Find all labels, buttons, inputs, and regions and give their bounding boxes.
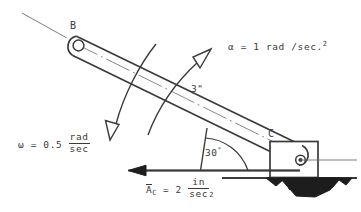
slider-block bbox=[270, 142, 318, 178]
alpha-arrow-head bbox=[193, 49, 211, 68]
bar-end-cap-b bbox=[61, 37, 300, 161]
bar-lower-edge bbox=[73, 56, 299, 166]
acceleration-unit-fraction: in sec bbox=[188, 177, 209, 200]
alpha-unit: rad /sec. bbox=[266, 41, 323, 52]
mechanism-diagram: B C 3" 30° α = 1 rad /sec.2 ω = 0.5 rad … bbox=[0, 0, 361, 212]
alpha-symbol: α bbox=[228, 41, 234, 52]
acceleration-subscript: C bbox=[152, 189, 156, 197]
point-label-c: C bbox=[268, 129, 275, 139]
acceleration-equals: = bbox=[163, 185, 169, 195]
angle-label-30: 30° bbox=[205, 147, 221, 158]
acceleration-equation: AC = 2 in sec 2 bbox=[146, 178, 213, 201]
point-label-b: B bbox=[70, 21, 77, 31]
omega-arrow-head bbox=[106, 121, 120, 141]
bar-length-label: 3" bbox=[191, 84, 203, 94]
omega-unit-fraction: rad sec bbox=[69, 132, 90, 155]
bar-extension-centerline bbox=[22, 13, 74, 42]
acceleration-unit-denominator: sec bbox=[188, 189, 209, 200]
alpha-equation: α = 1 rad /sec.2 bbox=[228, 41, 327, 52]
acceleration-exponent: 2 bbox=[209, 191, 213, 199]
omega-value: 0.5 bbox=[43, 140, 62, 150]
omega-unit-denominator: sec bbox=[69, 144, 90, 155]
acceleration-value: 2 bbox=[176, 185, 182, 195]
alpha-equals: = bbox=[241, 41, 247, 52]
omega-equation: ω = 0.5 rad sec bbox=[18, 133, 90, 156]
omega-equals: = bbox=[31, 140, 37, 150]
acceleration-arrow-head bbox=[128, 165, 146, 176]
angle-value: 30 bbox=[205, 147, 217, 158]
alpha-exponent: 2 bbox=[323, 40, 327, 48]
ground-hatching bbox=[266, 178, 352, 197]
pin-hole-b bbox=[73, 40, 84, 51]
omega-symbol: ω bbox=[18, 140, 24, 150]
degree-symbol: ° bbox=[217, 146, 221, 154]
alpha-value: 1 bbox=[253, 41, 259, 52]
